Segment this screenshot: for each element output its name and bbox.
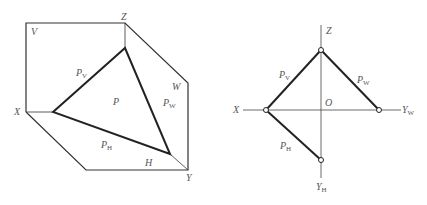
- plane-p-triangle: [53, 48, 170, 154]
- label-origin: O: [325, 98, 332, 108]
- label-pv-trace: PV: [76, 68, 87, 80]
- label-pv-trace-right: PV: [279, 70, 290, 82]
- label-pw-trace: PW: [163, 98, 176, 110]
- label-z-axis-right: Z: [326, 26, 332, 36]
- label-x-axis-right: X: [233, 105, 239, 115]
- label-w-plane: W: [172, 82, 180, 92]
- label-z-axis: Z: [121, 12, 127, 22]
- label-ph-trace-right: PH: [280, 141, 291, 153]
- label-h-plane: H: [145, 158, 152, 168]
- diagram-canvas: [0, 0, 427, 205]
- label-ph-trace: PH: [101, 140, 112, 152]
- label-x-axis: X: [14, 107, 20, 117]
- label-plane-p: P: [113, 97, 119, 107]
- label-pw-trace-right: PW: [357, 75, 370, 87]
- label-yw-axis: YW: [402, 105, 414, 117]
- label-y-axis: Y: [186, 173, 192, 183]
- label-v-plane: V: [31, 27, 37, 37]
- label-yh-axis: YH: [316, 182, 327, 194]
